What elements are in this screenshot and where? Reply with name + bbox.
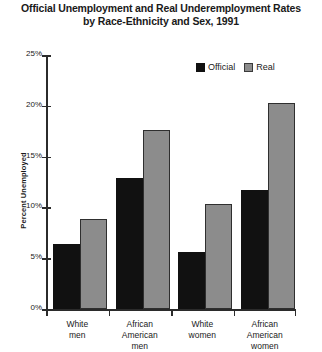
x-tick-mark xyxy=(46,309,48,316)
category-label-line: African xyxy=(228,319,302,330)
y-tick-label: 5% xyxy=(12,252,42,261)
bar-real-white-men xyxy=(80,219,107,309)
bar-group-white-women xyxy=(178,55,232,309)
category-label-line: women xyxy=(228,341,302,352)
x-tick-mark xyxy=(295,309,297,316)
y-tick-mark xyxy=(42,157,51,159)
y-tick-label: 0% xyxy=(12,303,42,312)
y-tick-label: 15% xyxy=(12,151,42,160)
unemployment-bar-chart: Official Unemployment and Real Underempl… xyxy=(0,0,322,352)
bar-official-white-men xyxy=(53,244,80,309)
bar-real-african-american-men xyxy=(143,130,170,309)
x-tick-mark xyxy=(234,309,236,316)
category-label-line: American xyxy=(228,330,302,341)
plot-area: 0%5%10%15%20%25% WhitemenAfricanAmerican… xyxy=(46,55,296,309)
bar-official-african-american-women xyxy=(241,190,268,309)
bar-group-white-men xyxy=(53,55,107,309)
y-axis-line xyxy=(46,55,48,309)
chart-title-line-1: Official Unemployment and Real Underempl… xyxy=(6,2,316,15)
chart-title: Official Unemployment and Real Underempl… xyxy=(6,2,316,28)
y-tick-mark xyxy=(42,55,51,57)
y-tick-label: 20% xyxy=(12,100,42,109)
bar-real-african-american-women xyxy=(268,103,295,309)
category-label-african-american-women: AfricanAmericanwomen xyxy=(228,319,302,352)
y-tick-mark xyxy=(42,258,51,260)
y-tick-mark xyxy=(42,106,51,108)
x-tick-mark xyxy=(109,309,111,316)
category-label-line: men xyxy=(103,341,177,352)
bar-group-african-american-women xyxy=(241,55,295,309)
y-tick-label: 25% xyxy=(12,49,42,58)
bar-official-white-women xyxy=(178,252,205,309)
y-tick-label: 10% xyxy=(12,201,42,210)
chart-title-line-2: by Race-Ethnicity and Sex, 1991 xyxy=(6,15,316,28)
y-axis-title: Percent Unemployed xyxy=(19,116,28,266)
x-tick-mark xyxy=(171,309,173,316)
bar-real-white-women xyxy=(205,204,232,309)
bar-group-african-american-men xyxy=(116,55,170,309)
y-tick-mark xyxy=(42,207,51,209)
bar-official-african-american-men xyxy=(116,178,143,309)
